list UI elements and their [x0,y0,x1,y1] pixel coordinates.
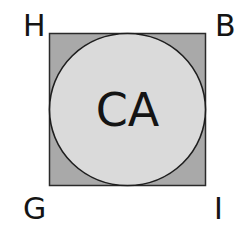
corner-label-top-left: H [23,11,46,41]
center-label: CA [49,33,206,186]
diagram-canvas: H B G I CA [0,0,239,226]
corner-label-top-right: B [215,11,236,41]
corner-label-bottom-left: G [23,194,46,224]
corner-label-bottom-right: I [214,194,223,224]
